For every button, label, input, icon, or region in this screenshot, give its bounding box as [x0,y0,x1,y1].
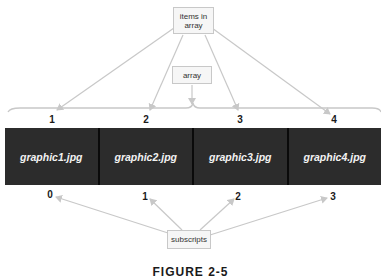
array-cell-3: graphic3.jpg [194,128,289,185]
array-cell-1: graphic1.jpg [5,128,100,185]
items-in-array-label: items in array [173,7,214,34]
subscript-2: 2 [231,191,245,202]
array-cells: graphic1.jpg graphic2.jpg graphic3.jpg g… [5,128,381,185]
item-number-3: 3 [233,114,247,125]
subscripts-label: subscripts [167,230,211,249]
item-number-2: 2 [139,114,153,125]
array-cell-2: graphic2.jpg [100,128,195,185]
item-number-1: 1 [45,114,59,125]
subscript-3: 3 [326,191,340,202]
item-number-4: 4 [327,114,341,125]
array-label: array [172,66,212,84]
subscript-0: 0 [43,189,57,200]
figure-caption: FIGURE 2-5 [0,265,381,276]
array-cell-4: graphic4.jpg [289,128,381,185]
subscript-1: 1 [138,191,152,202]
